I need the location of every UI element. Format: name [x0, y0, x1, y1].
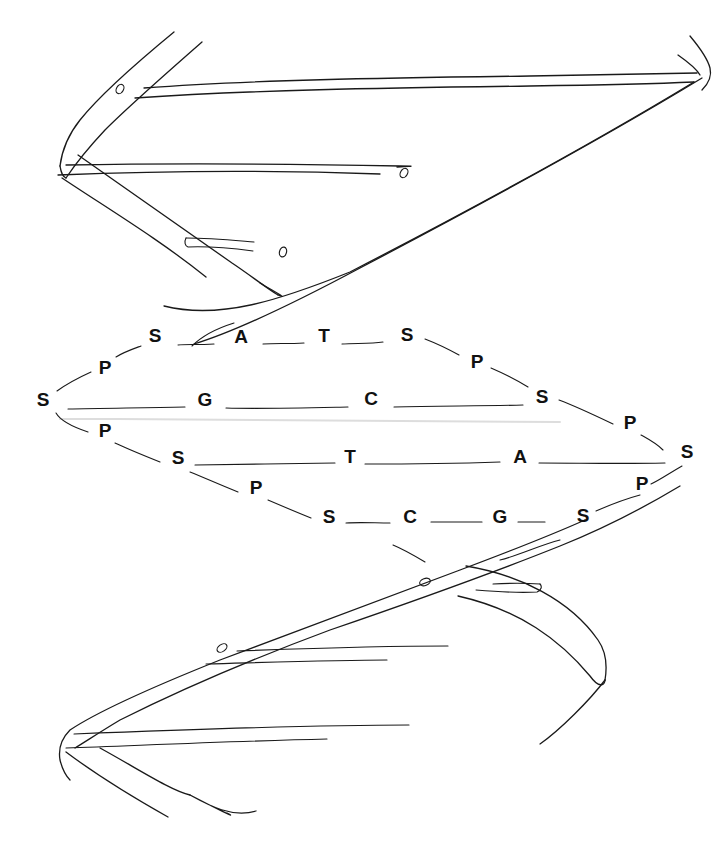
label-sugar: S — [172, 448, 185, 467]
upper-helix — [58, 32, 711, 344]
label-phosphate: P — [99, 421, 112, 440]
label-sugar: S — [536, 387, 549, 406]
label-sugar: S — [149, 326, 162, 345]
label-base-thymine: T — [344, 447, 356, 466]
label-phosphate: P — [636, 474, 649, 493]
label-sugar: S — [37, 390, 50, 409]
label-base-thymine: T — [318, 326, 330, 345]
label-sugar: S — [401, 325, 414, 344]
label-phosphate: P — [624, 413, 637, 432]
label-sugar: S — [323, 507, 336, 526]
label-base-guanine: G — [198, 390, 213, 409]
label-base-adenine: A — [234, 327, 248, 346]
label-phosphate: P — [471, 352, 484, 371]
label-phosphate: P — [99, 358, 112, 377]
label-base-guanine: G — [493, 507, 508, 526]
label-base-adenine: A — [513, 447, 527, 466]
label-base-cytosine: C — [403, 507, 417, 526]
lower-helix — [59, 486, 680, 817]
label-phosphate: P — [250, 478, 263, 497]
label-sugar: S — [681, 442, 694, 461]
label-base-cytosine: C — [364, 389, 378, 408]
ladder-lines — [56, 323, 682, 523]
dna-helix-diagram: S A T S P P S G C S P P S T A S P P S C … — [0, 0, 725, 841]
label-sugar: S — [577, 506, 590, 525]
